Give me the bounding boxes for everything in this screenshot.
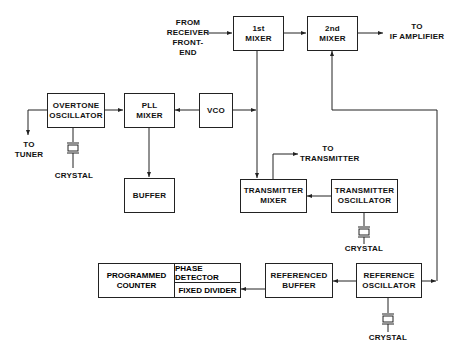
crystal-icon [68, 145, 78, 151]
crystal-label: CRYSTAL [366, 333, 410, 343]
transmitter-oscillator-block: TRANSMITTEROSCILLATOR [331, 179, 398, 213]
crystal-label: CRYSTAL [342, 244, 386, 254]
referenced-buffer-block: REFERENCEDBUFFER [265, 263, 333, 298]
phase-detector: PHASE DETECTOR [175, 264, 240, 283]
fixed-divider: FIXED DIVIDER [175, 283, 240, 297]
second-mixer-block: 2ndMIXER [307, 16, 358, 51]
from-receiver-label: FROMRECEIVERFRONT-END [166, 18, 210, 58]
vco-block: VCO [199, 93, 233, 128]
reference-oscillator-block: REFERENCEOSCILLATOR [356, 263, 422, 298]
buffer-block: BUFFER [124, 178, 175, 213]
overtone-oscillator-block: OVERTONEOSCILLATOR [47, 93, 105, 128]
crystal-label: CRYSTAL [52, 171, 96, 181]
crystal-icon [383, 316, 393, 322]
pll-mixer-block: PLLMIXER [124, 93, 175, 128]
to-transmitter-label: TOTRANSMITTER [300, 144, 356, 164]
to-tuner-label: TOTUNER [14, 140, 44, 160]
programmed-counter-block: PROGRAMMEDCOUNTER PHASE DETECTOR FIXED D… [98, 263, 241, 298]
to-if-amplifier-label: TOIF AMPLIFIER [384, 22, 450, 42]
programmed-counter: PROGRAMMEDCOUNTER [99, 264, 175, 297]
first-mixer-block: 1stMIXER [233, 16, 284, 51]
transmitter-mixer-block: TRANSMITTERMIXER [240, 179, 307, 213]
crystal-icon [359, 229, 369, 235]
